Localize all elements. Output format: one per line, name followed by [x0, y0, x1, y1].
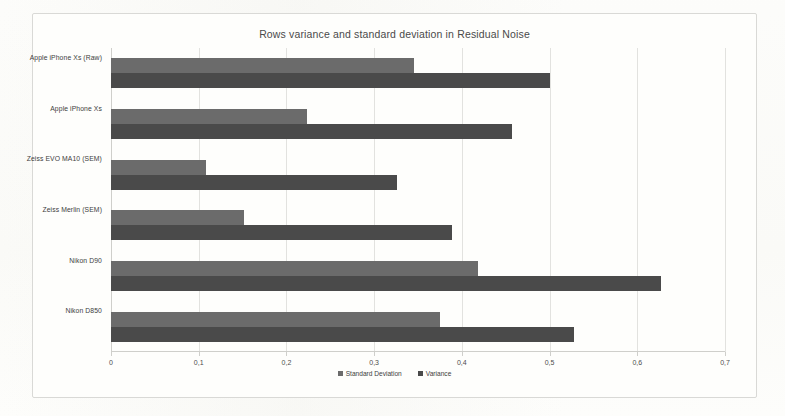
x-tick-label: 0,6: [632, 359, 642, 366]
x-tick-mark: [111, 352, 112, 356]
category-label: Zeiss EVO MA10 (SEM): [27, 155, 102, 162]
x-tick-mark: [286, 352, 287, 356]
chart-category-row: Apple iPhone Xs (Raw): [111, 48, 725, 99]
bar-standard-deviation: [111, 58, 414, 73]
plot-area: Apple iPhone Xs (Raw)Apple iPhone XsZeis…: [111, 48, 725, 352]
bar-variance: [111, 124, 512, 139]
category-label: Zeiss Merlin (SEM): [42, 206, 102, 213]
legend-swatch-icon: [338, 371, 343, 376]
chart-category-row: Zeiss EVO MA10 (SEM): [111, 149, 725, 200]
chart-title: Rows variance and standard deviation in …: [33, 28, 756, 40]
gridline: [725, 48, 726, 352]
bar-variance: [111, 73, 550, 88]
legend-item[interactable]: Variance: [418, 370, 452, 377]
category-label: Apple iPhone Xs: [50, 105, 102, 112]
chart-category-row: Apple iPhone Xs: [111, 99, 725, 150]
x-tick-label: 0,7: [720, 359, 730, 366]
x-tick-label: 0,4: [457, 359, 467, 366]
category-label: Apple iPhone Xs (Raw): [30, 54, 102, 61]
bar-variance: [111, 175, 397, 190]
chart-category-row: Nikon D850: [111, 301, 725, 352]
chart-category-row: Zeiss Merlin (SEM): [111, 200, 725, 251]
x-tick-label: 0,1: [194, 359, 204, 366]
bar-variance: [111, 327, 574, 342]
legend-label: Standard Deviation: [346, 370, 402, 377]
bar-standard-deviation: [111, 312, 440, 327]
bar-standard-deviation: [111, 109, 307, 124]
x-tick-mark: [550, 352, 551, 356]
bar-standard-deviation: [111, 160, 206, 175]
bar-standard-deviation: [111, 210, 244, 225]
bar-variance: [111, 225, 452, 240]
x-tick-label: 0,2: [282, 359, 292, 366]
chart-category-row: Nikon D90: [111, 251, 725, 302]
bar-standard-deviation: [111, 261, 478, 276]
x-tick-label: 0,5: [545, 359, 555, 366]
bar-variance: [111, 276, 661, 291]
x-tick-mark: [199, 352, 200, 356]
x-tick-label: 0,3: [369, 359, 379, 366]
category-label: Nikon D90: [69, 257, 102, 264]
x-tick-mark: [374, 352, 375, 356]
x-tick-mark: [637, 352, 638, 356]
legend-swatch-icon: [418, 371, 423, 376]
legend-label: Variance: [426, 370, 452, 377]
x-tick-mark: [725, 352, 726, 356]
legend-item[interactable]: Standard Deviation: [338, 370, 402, 377]
chart-legend: Standard DeviationVariance: [33, 370, 756, 377]
chart-frame: Rows variance and standard deviation in …: [32, 13, 757, 398]
chart-page: Rows variance and standard deviation in …: [0, 0, 785, 416]
x-tick-mark: [462, 352, 463, 356]
x-tick-label: 0: [109, 359, 113, 366]
category-label: Nikon D850: [65, 307, 102, 314]
